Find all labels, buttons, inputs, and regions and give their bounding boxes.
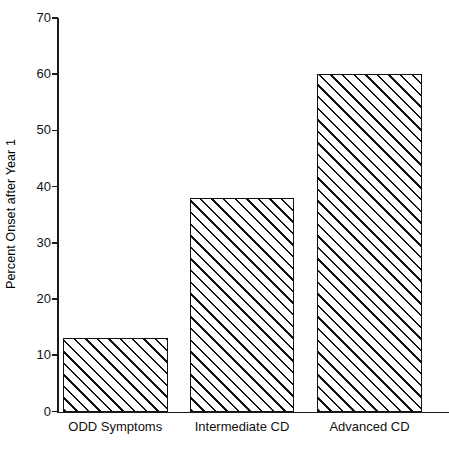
bar-chart: Percent Onset after Year 1 0102030405060… [0, 0, 449, 454]
x-axis-label: Intermediate CD [190, 419, 294, 434]
x-axis-label: Advanced CD [317, 419, 422, 434]
x-axis-label: ODD Symptoms [63, 419, 169, 434]
plot-area [0, 0, 449, 454]
bar-odd-symptoms [63, 338, 169, 411]
bar-advanced-cd [317, 74, 422, 411]
bar-intermediate-cd [190, 198, 294, 412]
